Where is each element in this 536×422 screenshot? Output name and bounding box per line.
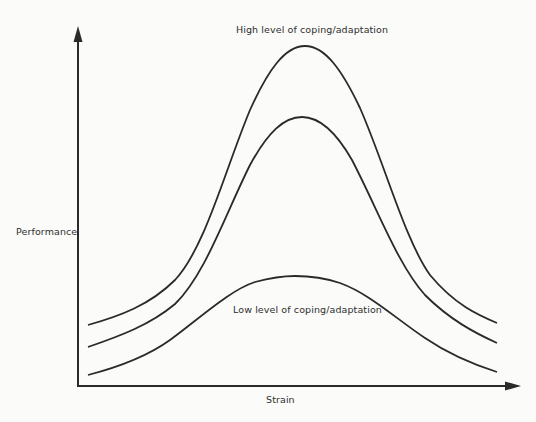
- x-axis-arrow-icon: [505, 382, 521, 391]
- curve-low-coping: [88, 276, 497, 375]
- curve-high-coping: [88, 46, 497, 325]
- y-axis-arrow-icon: [74, 26, 83, 42]
- annotation-low-coping: Low level of coping/adaptation: [233, 304, 382, 315]
- y-axis-label: Performance: [16, 226, 77, 237]
- annotation-high-coping: High level of coping/adaptation: [236, 24, 388, 35]
- x-axis-label: Strain: [266, 394, 295, 405]
- chart-canvas: [0, 0, 536, 422]
